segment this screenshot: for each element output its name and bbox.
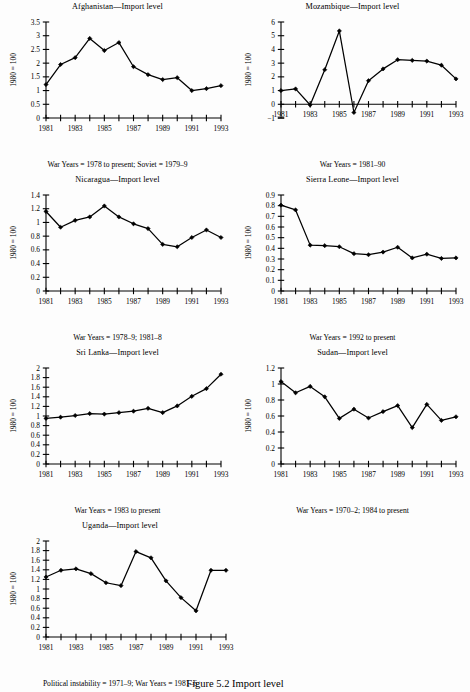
y-tick-label: 1.2 — [31, 204, 41, 213]
y-axis-label: 1980 = 100 — [244, 226, 253, 260]
x-tick-label: 1989 — [155, 470, 170, 479]
x-tick-label: 1981 — [39, 297, 54, 306]
y-tick-label: 0.2 — [31, 273, 41, 282]
data-point — [59, 568, 63, 572]
x-tick-label: 1987 — [126, 297, 141, 306]
x-tick-label: 1985 — [97, 470, 112, 479]
data-point — [279, 88, 283, 92]
y-tick-label: 0 — [36, 287, 40, 296]
y-tick-label: 1 — [36, 86, 40, 95]
y-tick-label: 0 — [271, 287, 275, 296]
y-tick-label: 1.8 — [31, 546, 41, 555]
x-tick-label: 1987 — [361, 297, 376, 306]
data-point — [44, 416, 48, 420]
x-tick-label: 1985 — [332, 470, 347, 479]
x-tick-label: 1993 — [219, 643, 234, 652]
y-tick-label: 0.2 — [266, 444, 276, 453]
x-tick-label: 1991 — [419, 110, 434, 119]
y-axis-label: 1980 = 100 — [244, 399, 253, 433]
data-point — [366, 253, 370, 257]
data-point — [219, 84, 223, 88]
x-tick-label: 1985 — [99, 643, 114, 652]
y-tick-label: 2 — [36, 364, 40, 373]
chart-plot: 00.20.40.60.811.21.41.61.821981198319851… — [0, 356, 235, 496]
data-point — [88, 412, 92, 416]
x-tick-label: 1985 — [332, 110, 347, 119]
y-tick-label: 0.6 — [266, 223, 276, 232]
figure-page: Afghanistan—Import levelWar Years = 1978… — [0, 0, 470, 692]
data-point — [73, 218, 77, 222]
y-tick-label: 0.4 — [31, 613, 41, 622]
y-tick-label: 0.3 — [266, 255, 276, 264]
y-tick-label: 1.5 — [31, 72, 41, 81]
y-tick-label: 1.6 — [31, 556, 41, 565]
y-tick-label: 1 — [36, 412, 40, 421]
y-tick-label: 0 — [36, 114, 40, 123]
data-point — [209, 568, 213, 572]
data-line — [46, 206, 221, 247]
chart-panel-sri-lanka: Sri Lanka—Import levelWar Years = 1983 t… — [0, 346, 235, 519]
y-tick-label: 5 — [271, 31, 275, 40]
y-tick-label: 1.4 — [31, 565, 41, 574]
y-tick-label: 3 — [271, 59, 275, 68]
chart-caption: War Years = 1978 to present; Soviet = 19… — [0, 160, 235, 169]
data-point — [58, 415, 62, 419]
data-point — [117, 411, 121, 415]
x-tick-label: 1981 — [274, 297, 289, 306]
data-point — [323, 244, 327, 248]
x-tick-label: 1991 — [189, 643, 204, 652]
y-tick-label: 2 — [36, 59, 40, 68]
x-tick-label: 1991 — [419, 297, 434, 306]
y-tick-label: 0.2 — [31, 623, 41, 632]
data-point — [410, 58, 414, 62]
y-tick-label: 3 — [36, 31, 40, 40]
data-point — [381, 250, 385, 254]
chart-caption: War Years = 1992 to present — [235, 333, 470, 342]
data-point — [74, 567, 78, 571]
x-tick-label: 1983 — [303, 297, 318, 306]
data-point — [308, 243, 312, 247]
x-tick-label: 1993 — [214, 297, 229, 306]
x-tick-label: 1987 — [126, 470, 141, 479]
data-point — [134, 549, 138, 553]
x-tick-label: 1983 — [303, 470, 318, 479]
data-point — [119, 584, 123, 588]
y-tick-label: 1.8 — [31, 373, 41, 382]
y-tick-label: 0.6 — [31, 245, 41, 254]
x-tick-label: 1989 — [155, 124, 170, 133]
y-tick-label: 1.2 — [31, 402, 41, 411]
y-tick-label: 0.8 — [31, 421, 41, 430]
x-tick-label: 1983 — [68, 124, 83, 133]
data-point — [352, 252, 356, 256]
y-tick-label: 0.4 — [31, 440, 41, 449]
data-point — [102, 412, 106, 416]
y-tick-label: 6 — [271, 18, 275, 27]
x-tick-label: 1993 — [449, 297, 464, 306]
data-point — [381, 410, 385, 414]
x-tick-label: 1989 — [155, 297, 170, 306]
x-tick-label: 1993 — [214, 470, 229, 479]
data-point — [161, 78, 165, 82]
chart-panel-nicaragua: Nicaragua—Import levelWar Years = 1978–9… — [0, 173, 235, 346]
data-point — [204, 228, 208, 232]
x-tick-label: 1991 — [184, 297, 199, 306]
x-tick-label: 1981 — [39, 643, 54, 652]
y-tick-label: 0 — [36, 460, 40, 469]
x-tick-label: 1993 — [449, 470, 464, 479]
y-tick-label: 1.2 — [266, 364, 276, 373]
chart-panel-mozambique: Mozambique—Import levelWar Years = 1981–… — [235, 0, 470, 173]
x-tick-label: 1987 — [361, 470, 376, 479]
chart-caption: War Years = 1970–2; 1984 to present — [235, 506, 470, 515]
x-tick-label: 1985 — [332, 297, 347, 306]
data-line — [46, 552, 226, 611]
chart-caption: War Years = 1983 to present — [0, 506, 235, 515]
y-tick-label: 0.6 — [266, 412, 276, 421]
data-point — [352, 110, 356, 114]
y-tick-label: 0.4 — [266, 244, 276, 253]
y-tick-label: 0 — [271, 100, 275, 109]
y-tick-label: 0.8 — [31, 232, 41, 241]
x-tick-label: 1983 — [69, 643, 84, 652]
data-point — [454, 256, 458, 260]
data-point — [219, 235, 223, 239]
x-tick-label: 1993 — [214, 124, 229, 133]
